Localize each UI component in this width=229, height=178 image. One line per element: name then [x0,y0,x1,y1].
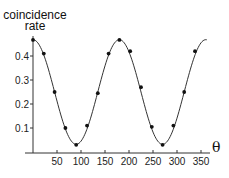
data-point [85,124,89,128]
data-point [161,143,165,147]
data-point [118,38,122,42]
data-point [42,52,46,56]
x-tick-label: 250 [145,156,162,167]
x-tick-label: 100 [73,156,90,167]
fit-curve [33,40,207,145]
data-point [150,125,154,129]
y-tick-label: 0.4 [15,51,29,62]
x-tick-label: 300 [169,156,186,167]
x-tick-label: 200 [121,156,138,167]
data-point [172,124,176,128]
y-tick-label: 0.3 [15,75,29,86]
y-tick-label: 0.2 [15,99,29,110]
data-point [128,49,132,53]
data-point [139,85,143,89]
y-tick-label: 0.1 [15,123,29,134]
data-point [31,38,35,42]
data-point [107,52,111,56]
data-point [193,49,197,53]
x-axis-label: θ [212,139,220,155]
chart-plot: 501001502002503003500.10.20.30.4 θ [0,0,229,178]
x-tick-label: 150 [97,156,114,167]
data-point [53,90,57,94]
x-tick-label: 350 [193,156,210,167]
data-point [182,90,186,94]
x-tick-label: 50 [51,156,63,167]
data-points [31,38,197,147]
data-point [64,126,68,130]
data-point [96,91,100,95]
data-point [74,143,78,147]
